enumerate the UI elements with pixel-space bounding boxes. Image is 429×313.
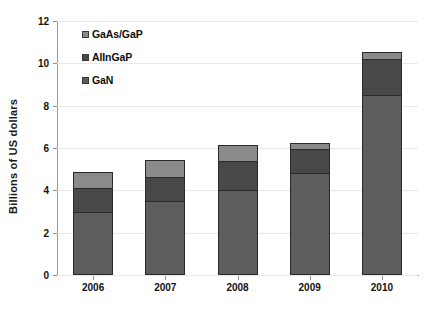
legend-item: GaN: [82, 74, 143, 86]
y-tick-label: 2: [23, 227, 49, 238]
x-tick-mark: [310, 276, 311, 280]
x-tick-mark: [93, 276, 94, 280]
bar-segment: [290, 173, 330, 275]
legend-label: GaN: [92, 74, 113, 86]
bar-segment: [145, 177, 185, 201]
chart-legend: GaAs/GaPAlInGaPGaN: [82, 28, 143, 86]
bar-segment: [362, 52, 402, 59]
legend-swatch-icon: [82, 77, 89, 84]
x-category-label: 2007: [154, 282, 176, 293]
x-tick-mark: [165, 276, 166, 280]
legend-swatch-icon: [82, 54, 89, 61]
chart-container: Billions of US dollars 024681012 2006200…: [0, 0, 429, 313]
y-tick-label: 0: [23, 270, 49, 281]
grid-line: [57, 21, 418, 22]
bar-stack: [290, 143, 330, 275]
x-category-label: 2010: [371, 282, 393, 293]
legend-item: GaAs/GaP: [82, 28, 143, 40]
bar-segment: [218, 161, 258, 191]
bar-segment: [218, 145, 258, 161]
y-tick-mark: [53, 233, 57, 234]
bar-stack: [362, 52, 402, 275]
bar-segment: [145, 201, 185, 275]
bar-stack: [145, 160, 185, 275]
x-tick-mark: [238, 276, 239, 280]
legend-label: AlInGaP: [92, 51, 132, 63]
x-category-label: 2006: [82, 282, 104, 293]
y-tick-mark: [53, 106, 57, 107]
y-tick-mark: [53, 190, 57, 191]
bar-segment: [362, 59, 402, 95]
bar-segment: [145, 160, 185, 177]
x-tick-mark: [382, 276, 383, 280]
y-tick-label: 6: [23, 143, 49, 154]
bar-stack: [218, 145, 258, 275]
bar-segment: [362, 95, 402, 275]
x-category-label: 2009: [299, 282, 321, 293]
y-tick-mark: [53, 275, 57, 276]
bar-segment: [218, 190, 258, 275]
legend-item: AlInGaP: [82, 51, 143, 63]
y-tick-mark: [53, 148, 57, 149]
legend-swatch-icon: [82, 31, 89, 38]
bar-segment: [73, 172, 113, 188]
y-tick-label: 10: [23, 58, 49, 69]
bar-segment: [73, 188, 113, 211]
bar-segment: [290, 149, 330, 173]
y-tick-label: 4: [23, 185, 49, 196]
y-tick-mark: [53, 21, 57, 22]
legend-label: GaAs/GaP: [92, 28, 143, 40]
y-tick-mark: [53, 63, 57, 64]
x-category-label: 2008: [226, 282, 248, 293]
bar-segment: [73, 212, 113, 276]
bar-stack: [73, 172, 113, 275]
y-axis-title: Billions of US dollars: [0, 0, 26, 313]
y-tick-label: 12: [23, 16, 49, 27]
y-tick-label: 8: [23, 100, 49, 111]
